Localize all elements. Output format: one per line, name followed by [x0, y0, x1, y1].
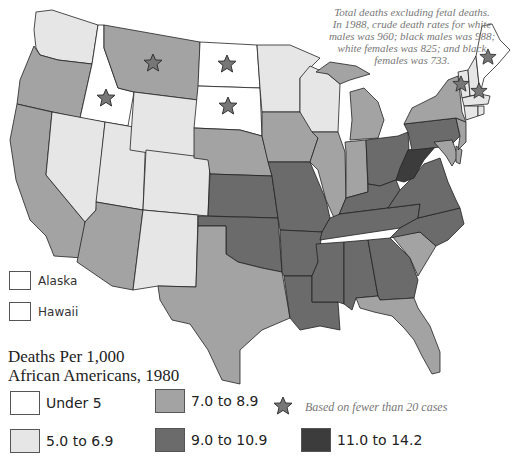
- legend-swatch-11-14.2: [301, 428, 331, 452]
- legend-label-under-5: Under 5: [46, 395, 102, 411]
- state-in: [345, 140, 368, 198]
- state-ms: [312, 242, 344, 304]
- legend-star-note: Based on fewer than 20 cases: [305, 400, 447, 415]
- legend-swatch-5-6.9: [10, 429, 40, 453]
- note-line: In 1988, crude death rates for white: [322, 18, 502, 30]
- legend-swatch-7-8.9: [155, 389, 185, 413]
- legend-label-9-10.9: 9.0 to 10.9: [191, 432, 267, 448]
- alaska-label: Alaska: [38, 274, 77, 288]
- note-line: white females was 825; and black: [322, 42, 502, 54]
- legend-label-7-8.9: 7.0 to 8.9: [191, 393, 258, 409]
- legend-label-5-6.9: 5.0 to 6.9: [46, 433, 113, 449]
- note-line: females was 733.: [322, 54, 502, 66]
- state-nm: [133, 210, 198, 290]
- state-fl: [356, 296, 440, 374]
- state-co: [143, 150, 210, 216]
- state-ri: [478, 106, 484, 116]
- legend-star-icon: [273, 396, 293, 416]
- hawaii-label: Hawaii: [38, 305, 78, 319]
- note-line: Total deaths excluding fetal deaths.: [322, 6, 502, 18]
- state-mi: [350, 88, 384, 140]
- state-ct: [464, 106, 478, 120]
- legend-title-line1: Deaths Per 1,000: [8, 347, 179, 366]
- legend-swatch-9-10.9: [155, 428, 185, 452]
- state-ks: [208, 174, 278, 218]
- hawaii-inset-swatch: [9, 302, 31, 321]
- alaska-inset-swatch: [9, 271, 31, 290]
- annotation-note: Total deaths excluding fetal deaths. In …: [322, 6, 502, 66]
- state-wy: [130, 92, 198, 160]
- legend-swatch-under-5: [10, 391, 40, 415]
- legend-title: Deaths Per 1,000 African Americans, 1980: [8, 347, 179, 385]
- legend-label-11-14.2: 11.0 to 14.2: [337, 432, 422, 448]
- legend-title-line2: African Americans, 1980: [8, 366, 179, 385]
- note-line: males was 960; black males was 988;: [322, 30, 502, 42]
